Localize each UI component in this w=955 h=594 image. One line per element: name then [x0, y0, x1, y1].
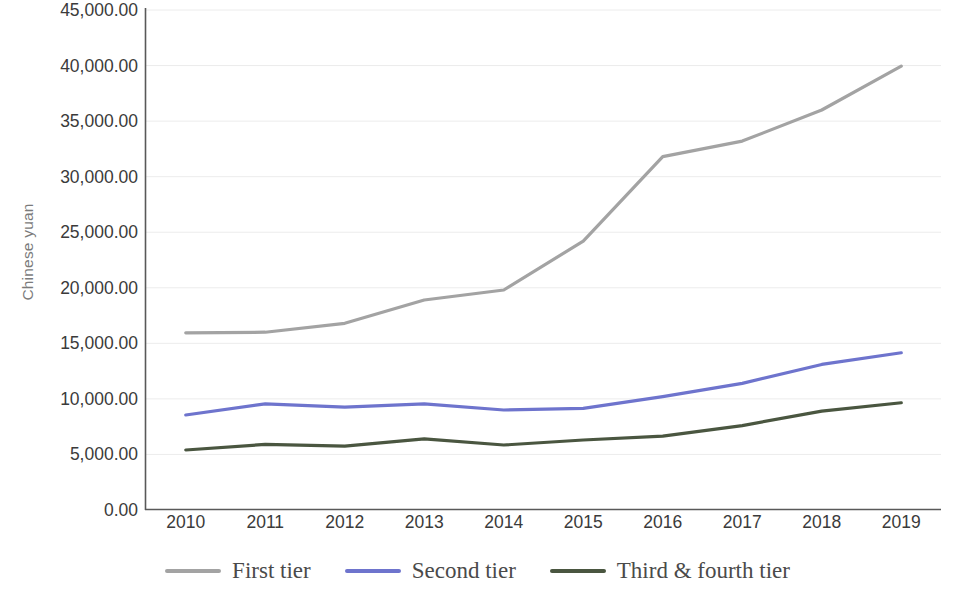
legend-item[interactable]: Second tier [345, 558, 516, 584]
axis-lines [145, 8, 941, 510]
series-line [186, 66, 902, 333]
legend-label: Third & fourth tier [617, 558, 790, 584]
legend-swatch-icon [165, 569, 221, 573]
line-chart: Chinese yuan 45,000.0040,000.0035,000.00… [0, 0, 955, 594]
legend-swatch-icon [345, 569, 401, 573]
series-line [186, 353, 902, 415]
legend-swatch-icon [550, 569, 606, 573]
chart-legend: First tierSecond tierThird & fourth tier [0, 558, 955, 584]
data-series [186, 66, 902, 450]
plot-area [0, 0, 955, 594]
legend-label: First tier [232, 558, 311, 584]
legend-label: Second tier [412, 558, 516, 584]
gridlines [146, 10, 941, 454]
legend-item[interactable]: First tier [165, 558, 311, 584]
legend-item[interactable]: Third & fourth tier [550, 558, 790, 584]
